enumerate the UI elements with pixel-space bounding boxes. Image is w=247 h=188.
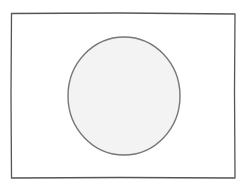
flag-sketch — [0, 0, 247, 188]
flag-circle — [68, 37, 180, 155]
